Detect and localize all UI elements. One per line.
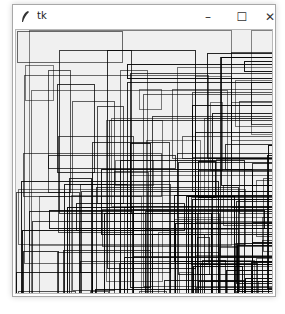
minimize-icon: – [205,10,211,24]
close-button[interactable]: ✕ [253,5,285,29]
close-icon: ✕ [265,10,275,24]
drawing-canvas[interactable] [15,29,273,294]
minimize-button[interactable]: – [191,5,225,29]
maximize-icon: ☐ [237,10,248,24]
window-title: tk [37,10,47,21]
title-bar[interactable]: tk – ☐ ✕ [13,5,275,29]
random-rectangles [16,30,272,293]
feather-icon [20,10,30,24]
tk-window: tk – ☐ ✕ [12,4,276,297]
